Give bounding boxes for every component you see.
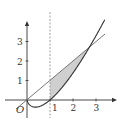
x-axis-arrow-icon (112, 98, 117, 102)
line-y-equals-x (16, 34, 105, 109)
origin-label: O (16, 104, 24, 115)
shaded-region (50, 47, 90, 100)
function-area-diagram: 1 2 3 1 2 3 O (0, 0, 122, 129)
x-tick-label-3: 3 (94, 103, 100, 113)
y-tick-label-2: 2 (17, 57, 23, 67)
x-tick-label-2: 2 (71, 103, 77, 113)
y-tick-label-1: 1 (17, 76, 23, 86)
y-tick-label-3: 3 (17, 37, 23, 47)
y-axis-arrow-icon (25, 21, 29, 26)
curve-x-ln-x (27, 20, 105, 107)
x-tick-label-1: 1 (52, 103, 58, 113)
